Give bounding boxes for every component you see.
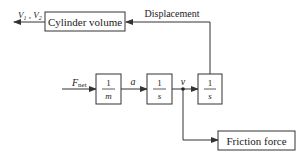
velocity-integrator-block: 1 s	[147, 74, 172, 104]
friction-force-block: Friction force	[218, 131, 295, 150]
displacement-label: Displacement	[145, 8, 200, 19]
integrator-1-numerator: 1	[157, 78, 162, 88]
block-diagram: Cylinder volume V1 , V2 Displacement Fne…	[0, 0, 299, 159]
integrator-2-denominator: s	[208, 91, 212, 101]
inverse-mass-block: 1 m	[96, 74, 121, 104]
displacement-path	[126, 22, 210, 74]
cylinder-volume-block: Cylinder volume	[45, 12, 125, 31]
input-label: Fnet	[71, 77, 87, 89]
cylinder-volume-label: Cylinder volume	[48, 16, 122, 28]
position-integrator-block: 1 s	[198, 74, 222, 104]
friction-force-label: Friction force	[226, 135, 286, 147]
integrator-1-denominator: s	[158, 91, 162, 101]
inverse-mass-numerator: 1	[106, 78, 111, 88]
velocity-label: v	[181, 76, 186, 87]
volumes-label: V1 , V2	[18, 10, 42, 21]
integrator-2-numerator: 1	[208, 78, 213, 88]
acceleration-label: a	[131, 76, 136, 87]
inverse-mass-denominator: m	[105, 91, 112, 101]
